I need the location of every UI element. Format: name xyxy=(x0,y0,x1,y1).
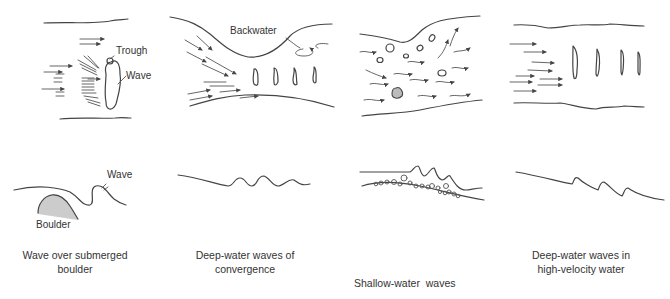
label-boulder: Boulder xyxy=(36,219,71,230)
label-wave-plan: Wave xyxy=(126,70,152,81)
panel1-plan-view: Trough Wave xyxy=(42,19,152,119)
caption-line: boulder xyxy=(10,262,140,276)
caption-line: convergence xyxy=(182,262,308,276)
caption-line: high-velocity water xyxy=(518,262,644,276)
label-backwater: Backwater xyxy=(230,25,277,36)
panel4-plan-view xyxy=(510,24,644,109)
panel3-profile-view xyxy=(360,166,484,200)
caption-line: Deep-water waves in xyxy=(518,248,644,262)
caption-panel3: Shallow-water waves over riffle or bar o… xyxy=(350,248,480,299)
caption-line: Shallow-water waves xyxy=(350,276,480,290)
caption-line: Wave over submerged xyxy=(10,248,140,262)
panel1-profile-view: Wave Boulder xyxy=(14,169,133,230)
label-trough: Trough xyxy=(116,45,147,56)
caption-panel1: Wave over submerged boulder xyxy=(10,248,140,276)
caption-panel2: Deep-water waves of convergence xyxy=(182,248,308,276)
panel2-profile-view xyxy=(178,175,310,186)
label-wave-profile: Wave xyxy=(107,169,133,180)
panel4-profile-view xyxy=(516,172,664,200)
panel2-plan-view: Backwater xyxy=(170,17,334,107)
caption-line: Deep-water waves of xyxy=(182,248,308,262)
panel3-plan-view xyxy=(360,16,482,116)
caption-panel4: Deep-water waves in high-velocity water xyxy=(518,248,644,276)
